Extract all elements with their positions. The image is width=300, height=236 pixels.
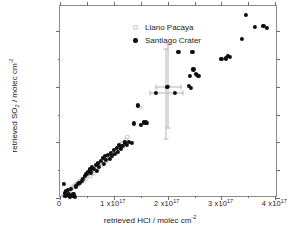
data-point	[132, 121, 136, 125]
x-axis-tick-label: 1 x1017	[100, 199, 125, 208]
data-point	[244, 13, 248, 17]
x-axis-minor-tick	[248, 196, 249, 198]
error-bar-cap-right	[182, 90, 183, 95]
error-bar-vertical	[165, 49, 166, 139]
y-axis-tick	[56, 87, 60, 88]
data-point	[62, 181, 66, 185]
x-axis-minor-tick	[141, 196, 142, 198]
data-point	[125, 135, 129, 139]
scatter-plot-figure: Llano Pacaya Santiago Crater 02 x10174 x…	[0, 0, 300, 236]
y-axis-tick-right	[276, 142, 280, 143]
data-point	[240, 37, 244, 41]
y-axis-tick	[56, 31, 60, 32]
data-point	[154, 91, 158, 95]
x-axis-tick-top	[168, 2, 169, 6]
data-point	[145, 121, 149, 125]
legend-entry-llano-pacaya: Llano Pacaya	[130, 21, 201, 34]
x-axis-tick-label: 2 x1017	[154, 199, 179, 208]
data-point	[191, 67, 195, 71]
data-point	[227, 55, 231, 59]
x-axis-minor-tick-top	[87, 2, 88, 6]
error-bar-cap-left	[155, 84, 156, 89]
data-point	[102, 162, 106, 166]
y-axis-title: retrieved SO2 / molec cm-2	[10, 6, 19, 206]
y-axis-minor-tick-right	[276, 59, 280, 60]
x-axis-minor-tick	[87, 196, 88, 198]
legend-label-santiago-crater: Santiago Crater	[145, 36, 201, 45]
x-axis-tick-top	[114, 2, 115, 6]
data-point	[97, 165, 101, 169]
error-bar-cap-top	[163, 49, 168, 50]
y-axis-minor-tick	[58, 170, 60, 171]
x-axis-tick-top	[60, 2, 61, 6]
x-axis-minor-tick-top	[195, 2, 196, 6]
y-axis-minor-tick	[58, 59, 60, 60]
legend-label-llano-pacaya: Llano Pacaya	[145, 23, 193, 32]
y-axis-minor-tick-right	[276, 170, 280, 171]
x-axis-tick-label: 3 x1017	[208, 199, 233, 208]
y-axis-minor-tick-right	[276, 115, 280, 116]
x-axis-minor-tick	[195, 196, 196, 198]
x-axis-minor-tick-top	[248, 2, 249, 6]
chart-legend: Llano Pacaya Santiago Crater	[130, 21, 201, 47]
data-point	[196, 74, 200, 78]
open-circle-icon	[130, 25, 141, 29]
filled-circle-icon	[130, 38, 141, 42]
y-axis-tick	[56, 142, 60, 143]
data-point	[176, 50, 180, 54]
error-bar-cap-left	[150, 90, 151, 95]
data-point	[188, 74, 192, 78]
data-point	[253, 24, 257, 28]
x-axis-title: retrieved HCl / molec cm-2	[0, 216, 300, 225]
y-axis-tick-right	[276, 87, 280, 88]
data-point	[129, 141, 133, 145]
legend-entry-santiago-crater: Santiago Crater	[130, 34, 201, 47]
data-point	[265, 26, 269, 30]
data-point	[190, 50, 194, 54]
data-point	[173, 91, 177, 95]
data-point	[95, 169, 99, 173]
x-axis-tick-label: 4 x1017	[262, 199, 287, 208]
data-point	[69, 186, 73, 190]
plot-area: Llano Pacaya Santiago Crater	[59, 5, 277, 197]
error-bar-cap-right	[180, 84, 181, 89]
data-point	[189, 86, 193, 90]
y-axis-minor-tick	[58, 115, 60, 116]
data-point	[72, 195, 76, 199]
y-axis-tick-right	[276, 31, 280, 32]
x-axis-minor-tick-top	[141, 2, 142, 6]
x-axis-tick-top	[221, 2, 222, 6]
x-axis-tick-label: 0	[57, 199, 61, 208]
error-bar-cap-bottom	[163, 139, 168, 140]
x-axis-tick-top	[275, 2, 276, 6]
